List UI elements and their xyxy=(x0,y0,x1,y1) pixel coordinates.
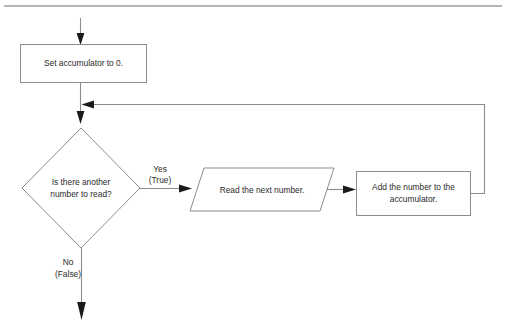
yes-branch-arrow-head-icon xyxy=(179,185,192,193)
process-node-init-label: Set accumulator to 0. xyxy=(44,58,123,68)
entry-arrow-head-icon xyxy=(77,33,85,45)
decision-node-label-line1: Is there another xyxy=(52,177,111,187)
loop-back-arrow-head-icon xyxy=(82,101,95,109)
no-branch-arrow-head-icon xyxy=(77,302,86,320)
yes-branch-label-line1: Yes xyxy=(153,164,167,174)
process-node-add-label-line1: Add the number to the xyxy=(372,182,455,192)
init-to-decision-arrow-head-icon xyxy=(77,111,85,124)
decision-node-label-line2: number to read? xyxy=(50,189,112,199)
process-node-add-label-line2: accumulator. xyxy=(390,194,437,204)
no-branch-label-line2: (False) xyxy=(55,269,81,279)
flowchart-diagram: Set accumulator to 0. Is there another n… xyxy=(0,0,506,326)
read-to-add-arrow-head-icon xyxy=(343,186,356,194)
yes-branch-label-line2: (True) xyxy=(149,175,172,185)
no-branch-label-line1: No xyxy=(63,257,74,267)
decision-node[interactable] xyxy=(22,128,140,248)
io-node-read-label: Read the next number. xyxy=(220,185,305,195)
